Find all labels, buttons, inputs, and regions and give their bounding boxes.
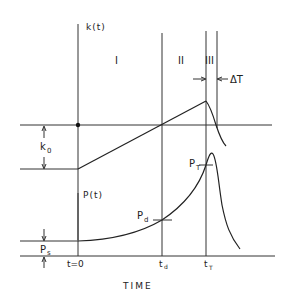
k0-subscript: 0 [47,147,51,155]
region-1-label: I [115,55,118,66]
k-rise-line [78,101,206,169]
k0-label: k [40,141,46,152]
td-tick-label: t [159,259,163,269]
p-curve [78,153,240,249]
region-2-label: II [178,55,184,66]
kinetics-diagram: k(t) P(t) I II III ΔT k 0 P s P d P T t=… [0,0,289,300]
t0-tick-label: t=0 [67,259,84,269]
ps-label: P [40,244,46,255]
region-3-label: III [205,55,214,66]
delta-t-label: ΔT [230,74,244,85]
time-axis-label: TIME [122,281,153,291]
pt-subscript: T [195,164,201,172]
p-axis-label: P(t) [83,190,103,200]
intersection-dot [76,123,80,127]
pd-subscript: d [144,216,148,224]
k-axis-label: k(t) [86,22,106,32]
tT-tick-label: t [204,259,208,269]
pd-label: P [137,210,143,221]
pt-label: P [189,158,195,169]
td-tick-subscript: d [164,263,168,270]
ps-subscript: s [47,249,51,257]
tT-tick-subscript: T [208,264,213,271]
k-fall-curve [206,101,226,146]
